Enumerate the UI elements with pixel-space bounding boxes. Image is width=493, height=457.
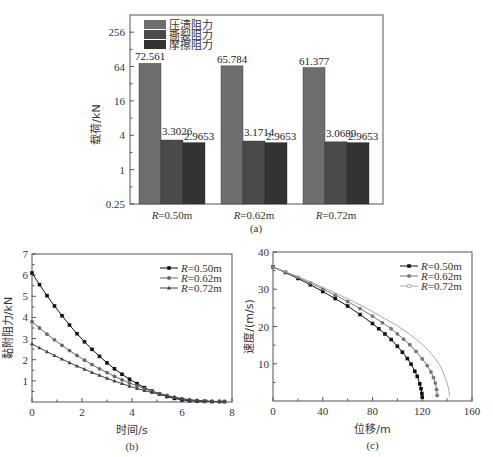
chart-a-load-bar-chart: 0.25141664256载荷/kN72.5613.30262.9653R=0.… [90, 15, 383, 235]
y-tick-label: 5 [23, 290, 29, 302]
bar-0-0 [139, 63, 161, 204]
bar-2-1 [265, 143, 287, 204]
series-R=0.62m [30, 320, 226, 404]
circle-marker [435, 388, 439, 392]
x-tick-label: 40 [317, 405, 329, 417]
circle-marker [68, 349, 72, 353]
series-line [273, 267, 422, 397]
x-category-label: R=0.50m [151, 209, 193, 221]
legend-label: R=0.72m [420, 280, 462, 292]
series-R=0.50m [271, 265, 424, 399]
circle-marker [113, 375, 117, 379]
circle-marker [105, 371, 109, 375]
circle-marker [420, 357, 424, 361]
figure-caption: (a) [250, 222, 263, 235]
x-tick-label: 2 [79, 406, 85, 418]
circle-marker [381, 321, 385, 325]
y-tick-label: 256 [109, 26, 126, 38]
legend-swatch [144, 30, 166, 39]
series-line [32, 344, 225, 402]
x-category-label: R=0.62m [233, 209, 275, 221]
bar-value-label: 72.561 [135, 50, 165, 62]
square-marker [358, 313, 362, 317]
square-marker [346, 304, 350, 308]
circle-marker [90, 363, 94, 367]
square-marker [371, 322, 375, 326]
square-marker [60, 314, 64, 318]
square-marker [98, 355, 102, 359]
bar-value-label: 2.9653 [184, 130, 215, 142]
square-marker [333, 297, 337, 301]
bar-value-label: 61.377 [299, 55, 330, 67]
x-tick-label: 120 [414, 405, 431, 417]
series-R=0.62m [271, 265, 439, 397]
x-category-label: R=0.72m [315, 209, 357, 221]
y-tick-label: 7 [23, 248, 29, 260]
x-tick-label: 0 [270, 405, 276, 417]
circle-marker [38, 326, 42, 330]
circle-marker [433, 381, 437, 385]
chart-c-velocity-displacement-line-chart: 0408012016010203040位移/m速度/(m/s)(c)R=0.50… [242, 246, 481, 452]
legend-label: 摩擦阻力 [169, 38, 213, 52]
y-tick-label: 6 [23, 269, 29, 281]
bar-value-label: 65.784 [217, 53, 248, 65]
y-tick-label: 4 [120, 129, 126, 141]
x-tick-label: 6 [179, 406, 185, 418]
bar-0-2 [303, 68, 325, 204]
x-tick-label: 160 [464, 405, 481, 417]
legend-label: R=0.72m [180, 282, 222, 294]
square-marker [105, 361, 109, 365]
y-tick-label: 1 [120, 164, 126, 176]
bar-value-label: 2.9653 [348, 130, 379, 142]
y-tick-label: 30 [258, 283, 270, 295]
x-axis-label: 时间/s [116, 424, 148, 437]
square-marker [45, 294, 49, 298]
y-tick-label: 10 [258, 358, 270, 370]
circle-marker [435, 394, 439, 398]
square-marker [30, 271, 34, 275]
circle-marker [407, 274, 411, 278]
legend-swatch [144, 20, 166, 29]
circle-marker [432, 376, 436, 380]
bar-1-0 [161, 140, 183, 204]
y-tick-label: 1 [23, 375, 29, 387]
y-tick-label: 40 [258, 246, 270, 258]
square-marker [420, 392, 424, 396]
circle-marker [346, 300, 350, 304]
y-axis-label: 黏附阻力/kN [1, 297, 15, 359]
square-marker [413, 369, 417, 373]
y-tick-label: 20 [258, 321, 270, 333]
triangle-marker [30, 342, 34, 346]
square-marker [53, 304, 57, 308]
chart-b-adhesion-resistance-line-chart: 024681234567时间/s黏附阻力/kN(b)R=0.50mR=0.62m… [1, 248, 235, 453]
x-axis-label: 位移/m [354, 422, 390, 436]
circle-marker [389, 327, 393, 331]
y-tick-label: 2 [23, 354, 29, 366]
x-tick-label: 80 [367, 405, 379, 417]
square-marker [83, 340, 87, 344]
square-marker [383, 332, 387, 336]
circle-marker [395, 332, 399, 336]
circle-marker [60, 343, 64, 347]
y-tick-label: 4 [23, 311, 29, 323]
bar-1-2 [325, 142, 347, 204]
circle-marker [98, 367, 102, 371]
square-marker [120, 373, 124, 377]
square-marker [409, 362, 413, 366]
y-axis-label: 速度/(m/s) [242, 299, 256, 353]
square-marker [420, 395, 424, 399]
y-tick-label: 3 [23, 333, 29, 345]
square-marker [377, 327, 381, 331]
y-tick-label: 64 [114, 61, 126, 73]
y-tick-label: 0.25 [106, 198, 126, 210]
square-marker [419, 387, 423, 391]
legend-swatch [144, 40, 166, 49]
bar-value-label: 2.9653 [266, 130, 297, 142]
figure-caption: (c) [366, 439, 379, 452]
circle-marker [53, 338, 57, 342]
circle-open-marker [407, 284, 411, 288]
circle-marker [75, 354, 79, 358]
square-marker [415, 375, 419, 379]
x-tick-label: 4 [129, 406, 135, 418]
circle-marker [429, 370, 433, 374]
